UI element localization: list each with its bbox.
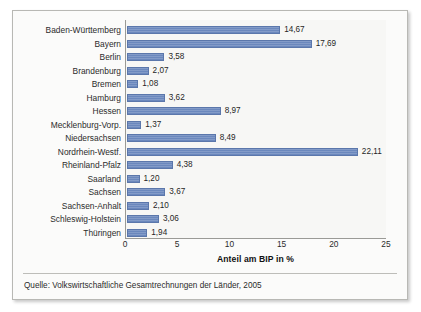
bar [127, 215, 159, 223]
bar-row: Niedersachsen8,49 [126, 132, 386, 146]
category-label: Brandenburg [73, 67, 121, 75]
x-tick-label: 10 [225, 240, 234, 248]
bar-value-label: 2,07 [153, 67, 169, 75]
bar-row: Hessen8,97 [126, 105, 386, 119]
bar [127, 202, 149, 210]
bar-row: Mecklenburg-Vorp.1,37 [126, 118, 386, 132]
category-label: Sachsen-Anhalt [62, 202, 121, 210]
bar-value-label: 17,69 [316, 40, 337, 48]
bar-value-label: 14,67 [284, 26, 305, 34]
bar-value-label: 22,11 [362, 148, 382, 156]
footer-divider [23, 273, 397, 274]
chart-plot-container: Baden-Württemberg14,67Bayern17,69Berlin3… [13, 11, 409, 267]
x-tick-label: 5 [175, 240, 180, 248]
bar-chart-plot-area: Baden-Württemberg14,67Bayern17,69Berlin3… [125, 20, 386, 239]
bar-value-label: 8,97 [225, 107, 241, 115]
bar [127, 161, 173, 169]
category-label: Baden-Württemberg [46, 26, 121, 34]
bar-value-label: 1,37 [145, 121, 161, 129]
x-tick-label: 0 [123, 240, 128, 248]
bar-row: Rheinland-Pfalz4,38 [126, 159, 386, 173]
category-label: Bayern [94, 40, 121, 48]
bar-value-label: 3,67 [169, 188, 185, 196]
bar-row: Baden-Württemberg14,67 [126, 24, 386, 38]
bar [127, 67, 149, 75]
bar-row: Berlin3,58 [126, 51, 386, 65]
bar-value-label: 1,20 [144, 175, 160, 183]
bar-value-label: 3,62 [169, 94, 185, 102]
category-label: Schleswig-Holstein [50, 215, 121, 223]
category-label: Bremen [92, 80, 121, 88]
category-label: Sachsen [88, 188, 121, 196]
category-label: Berlin [100, 53, 121, 61]
bar-value-label: 3,58 [168, 53, 184, 61]
bar [127, 229, 147, 237]
x-axis-tick-labels: 0510152025 [125, 240, 386, 253]
bar-row: Hamburg3,62 [126, 91, 386, 105]
bar [127, 40, 312, 48]
category-label: Rheinland-Pfalz [62, 161, 121, 169]
bar-row: Bremen1,08 [126, 78, 386, 92]
bar [127, 80, 138, 88]
category-label: Hamburg [87, 94, 121, 102]
bar-value-label: 1,08 [142, 80, 158, 88]
category-label: Nordrhein-Westf. [58, 148, 121, 156]
bar [127, 175, 140, 183]
bar [127, 148, 358, 156]
x-tick-label: 20 [329, 240, 338, 248]
bar-row: Sachsen3,67 [126, 186, 386, 200]
bar [127, 134, 216, 142]
bar-row: Sachsen-Anhalt2,10 [126, 199, 386, 213]
category-label: Thüringen [83, 229, 121, 237]
bar [127, 121, 141, 129]
category-label: Niedersachsen [65, 134, 121, 142]
source-note: Quelle: Volkswirtschaftliche Gesamtrechn… [24, 281, 262, 290]
x-tick-label: 25 [381, 240, 390, 248]
chart-figure: Baden-Württemberg14,67Bayern17,69Berlin3… [12, 10, 408, 300]
bar-row: Bayern17,69 [126, 37, 386, 51]
bar [127, 107, 221, 115]
category-label: Saarland [87, 175, 121, 183]
x-axis-title: Anteil am BIP in % [125, 254, 386, 264]
bar [127, 26, 280, 34]
category-label: Mecklenburg-Vorp. [51, 121, 121, 129]
bar-value-label: 3,06 [163, 215, 179, 223]
bar-row: Nordrhein-Westf.22,11 [126, 145, 386, 159]
bar-value-label: 1,94 [151, 229, 167, 237]
bar-row: Schleswig-Holstein3,06 [126, 213, 386, 227]
bar [127, 188, 165, 196]
x-tick-label: 15 [277, 240, 286, 248]
bar-row: Saarland1,20 [126, 172, 386, 186]
bar-row: Thüringen1,94 [126, 226, 386, 240]
bar-value-label: 8,49 [220, 134, 236, 142]
bar [127, 53, 164, 61]
bar-value-label: 2,10 [153, 202, 169, 210]
bar-value-label: 4,38 [177, 161, 193, 169]
bar-row: Brandenburg2,07 [126, 64, 386, 78]
bar [127, 94, 165, 102]
category-label: Hessen [93, 107, 121, 115]
